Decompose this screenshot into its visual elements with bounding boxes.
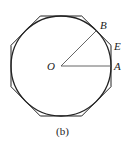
label-o: O	[47, 60, 55, 72]
label-b: B	[100, 19, 107, 31]
geometry-diagram: O A B E (b)	[0, 0, 131, 141]
figure-caption: (b)	[56, 125, 69, 138]
radius-ob	[61, 31, 96, 66]
label-e: E	[113, 40, 121, 52]
label-a: A	[113, 60, 121, 72]
